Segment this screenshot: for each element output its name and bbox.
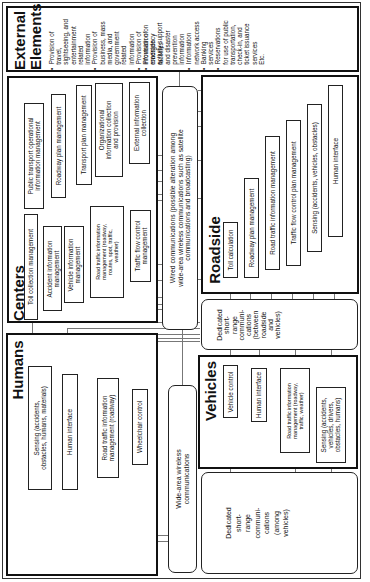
dsrc-roadside-vehicles: Dedicated short- range communi- cations … — [201, 299, 358, 350]
centers-accident-information-management: Accident information management — [43, 226, 62, 311]
humans-title: Humans — [8, 340, 28, 400]
roadside-toll-calculation: Toll calculation — [223, 222, 238, 278]
centers-transport-plan-management: Transport plan management — [76, 85, 92, 185]
vehicles-road-traffic-information-management: Road traffic information management (roa… — [280, 368, 310, 453]
vehicles-human-interface: Human interface — [251, 368, 267, 422]
wired-communications: Wired communications (possible alteratio… — [162, 86, 198, 330]
vehicles-sensing: Sensing (accidents, vehicles, drivers, o… — [316, 387, 346, 463]
vehicles-vehicle-control: Vehicle control — [223, 365, 238, 418]
centers-organizational-information-collection: Organizational information collection an… — [95, 83, 123, 177]
roadside-road-traffic-information-management: Road traffic information management — [265, 136, 280, 270]
external-elements-group: External Elements • Provision of travel,… — [6, 6, 359, 72]
roadside-human-interface: Human interface — [328, 85, 343, 237]
wide-area-wireless-communications: Wide-area wireless communications — [168, 385, 197, 573]
centers-external-information-collection: External information collection — [129, 82, 150, 164]
roadside-title: Roadside — [205, 220, 225, 280]
roadside-sensing: Sensing (accidents, vehicles, obstacles) — [307, 104, 322, 252]
vehicles-title: Vehicles — [201, 361, 221, 421]
humans-human-interface: Human interface — [62, 374, 78, 490]
centers-toll-collection-management: Toll collection management — [24, 214, 38, 320]
dsrc-among-vehicles: Dedicated short- range communi- cations … — [201, 472, 358, 574]
centers-vehicle-information-management: Vehicle information management — [64, 226, 84, 303]
humans-road-traffic-information-management: Road traffic information management (roa… — [97, 378, 119, 478]
external-elements-list-col2: • Provision of emergency activity suppor… — [142, 10, 265, 70]
roadside-traffic-flow-control-plan-management: Traffic flow control plan management — [286, 120, 301, 266]
centers-public-transport-operational-info-management: Public transport operational information… — [24, 103, 44, 209]
roadside-roadway-plan-management: Roadway plan management — [244, 178, 259, 278]
external-elements-title: External Elements — [12, 12, 44, 70]
centers-traffic-flow-control-management: Traffic flow control management — [130, 210, 151, 282]
humans-wheelchair-control: Wheelchair control — [132, 389, 148, 465]
centers-road-traffic-information-management: Road traffic information management (roa… — [90, 206, 124, 298]
humans-sensing: Sensing (accidents, obstacles, humans, m… — [28, 366, 52, 490]
centers-roadway-plan-management: Roadway plan management — [51, 94, 66, 198]
